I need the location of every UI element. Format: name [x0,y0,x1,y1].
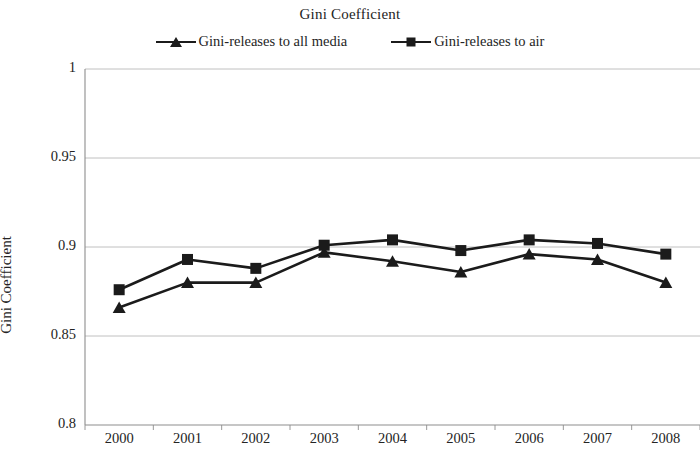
x-axis-tick-labels: 200020012002200320042005200620072008 [85,430,700,454]
gini-coefficient-chart: Gini Coefficient Gini-releases to all me… [0,0,700,458]
y-axis-tick-label: 0.8 [58,415,76,432]
y-axis-tick-label: 0.95 [51,148,76,165]
x-axis-tick-label: 2000 [85,430,153,454]
x-axis-tick-label: 2003 [290,430,358,454]
data-point-square [250,263,261,274]
data-point-square [455,245,466,256]
data-point-square [592,238,603,249]
x-axis-tick-label: 2008 [632,430,700,454]
plot-area [85,69,700,425]
x-axis-tick-label: 2005 [427,430,495,454]
x-axis-tick-label: 2004 [358,430,426,454]
data-point-square [660,249,671,260]
data-point-triangle [113,302,126,314]
data-point-square [319,240,330,251]
data-point-square [524,234,535,245]
data-point-square [114,284,125,295]
x-axis-tick-label: 2002 [222,430,290,454]
y-axis-tick-label: 0.9 [58,237,76,254]
x-axis-tick-label: 2006 [495,430,563,454]
plot-svg [85,69,700,425]
x-axis-tick-label: 2001 [153,430,221,454]
y-axis-tick-label: 1 [69,59,76,76]
data-point-square [182,254,193,265]
y-axis-tick-label: 0.85 [51,326,76,343]
x-axis-tick-label: 2007 [563,430,631,454]
data-point-square [387,234,398,245]
